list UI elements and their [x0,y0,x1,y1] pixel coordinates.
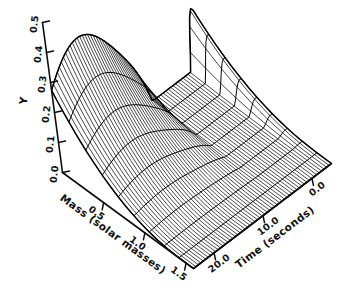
time-tick-label-2: 0.0 [307,179,328,198]
y-tick-2 [51,81,58,83]
mass-tick-2 [185,263,187,270]
mass-tick-label-2: 1.5 [169,264,190,283]
mass-tick-0 [102,203,104,210]
y-axis-title: Y [16,96,29,107]
y-tick-label-1: 0.4 [32,45,45,64]
y-tick-label-3: 0.2 [40,105,53,123]
y-tick-label-4: 0.1 [44,135,57,153]
y-tick-label-0: 0.5 [28,15,41,33]
figure-canvas: 0.50.40.30.20.10.0 0.51.01.5 20.010.00.0… [0,0,357,306]
surface-plot: 0.50.40.30.20.10.0 0.51.01.5 20.010.00.0… [0,0,357,306]
y-tick-4 [59,141,66,143]
y-tick-3 [55,111,62,113]
mass-tick-1 [143,233,145,240]
y-tick-0 [43,21,50,23]
y-tick-label-5: 0.0 [48,165,61,184]
y-tick-5 [63,171,70,173]
time-axis-title: Time (seconds) [233,203,317,270]
y-tick-label-2: 0.3 [36,75,49,93]
y-tick-1 [47,51,54,53]
